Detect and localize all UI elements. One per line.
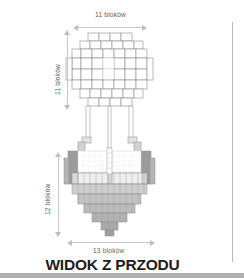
arrow-left-bottom [67,240,72,246]
arrow-up-left-lower [55,152,61,157]
canopy-group [66,33,153,106]
dimension-line-bottom [72,242,150,243]
arrow-right-top [142,25,147,31]
arrow-right-bottom [150,240,155,246]
dimension-label-base-height: 12 bloków [44,184,51,216]
page-footer-band [0,273,244,278]
schematic-page: 11 bloków 11 bloków 12 bloków 13 bloków … [0,0,244,278]
dimension-line-top [78,27,142,28]
arrow-down-left-upper [64,105,70,110]
dimension-label-top-width: 11 bloków [95,11,126,18]
arrow-down-left-lower [55,232,61,237]
trunk-group [78,106,141,154]
arrow-up-left-upper [64,30,70,35]
base-group [64,148,155,236]
dimension-label-bottom-width: 13 bloków [93,247,125,254]
figure-title: WIDOK Z PRZODU [0,256,225,274]
arrow-left-top [73,25,78,31]
dimension-line-left-lower [58,157,59,232]
dimension-line-left-upper [67,35,68,105]
build-schematic-drawing [0,0,244,278]
dimension-label-canopy-height: 11 bloków [54,64,61,95]
